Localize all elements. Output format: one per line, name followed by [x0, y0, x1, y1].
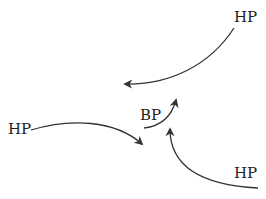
hp-top-label: HP	[234, 10, 257, 25]
arrow-hp-left-to-center	[31, 123, 142, 144]
arrow-hp-top-to-center	[125, 28, 234, 84]
hp-left-label: HP	[8, 122, 31, 137]
bp-center-label: BP	[140, 108, 161, 123]
hp-bottom-label: HP	[234, 166, 257, 181]
arrow-diagram	[0, 0, 266, 199]
